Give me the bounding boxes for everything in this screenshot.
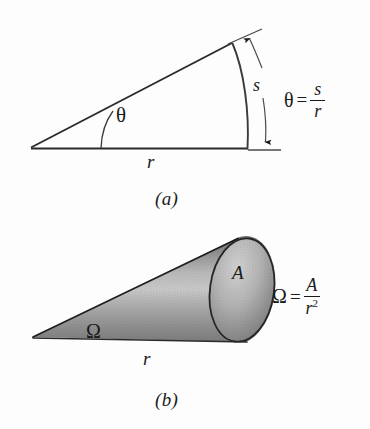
panel-caption-a: (a): [155, 188, 178, 210]
equation-omega-denominator-base: r: [306, 298, 313, 318]
equation-omega-equals: =: [290, 286, 301, 308]
label-theta: θ: [116, 105, 126, 126]
equation-omega: Ω = A r2: [272, 276, 320, 318]
dimension-arrow-down: [263, 98, 266, 142]
label-area-A: A: [232, 263, 244, 282]
label-radius-b: r: [143, 349, 150, 368]
label-radius-a: r: [147, 152, 154, 171]
extension-tick-top: [228, 29, 262, 44]
equation-omega-lhs: Ω: [272, 285, 287, 308]
figure-canvas: [0, 0, 370, 429]
dimension-arrow-up: [250, 39, 263, 69]
equation-omega-denominator: r2: [304, 297, 321, 318]
equation-omega-numerator: A: [304, 276, 319, 296]
equation-theta-fraction: s r: [310, 80, 325, 121]
equation-theta-denominator: r: [312, 101, 323, 121]
label-arc-s: s: [253, 76, 260, 94]
equation-theta-equals: =: [297, 89, 308, 111]
equation-theta-lhs: θ: [284, 89, 294, 112]
figure-root: θ r s θ = s r (a) Ω A r Ω = A r2 (b): [0, 0, 370, 429]
panel-caption-b: (b): [155, 389, 178, 411]
label-omega: Ω: [86, 321, 101, 341]
angle-arc-theta: [101, 111, 113, 148]
equation-theta-numerator: s: [312, 80, 323, 100]
panel-b-drawing: [20, 225, 290, 355]
arc-s: [233, 44, 248, 149]
panel-a-drawing: [31, 29, 281, 150]
upper-radius-line-a: [31, 43, 232, 148]
equation-omega-fraction: A r2: [304, 276, 321, 318]
equation-theta: θ = s r: [284, 80, 325, 121]
equation-omega-denominator-exponent: 2: [313, 297, 319, 309]
